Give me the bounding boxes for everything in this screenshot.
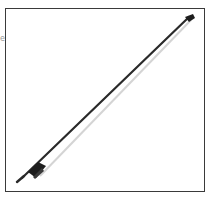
bow-stick	[22, 17, 189, 178]
bow-button	[17, 176, 24, 182]
bow-hair	[40, 20, 191, 176]
violin-bow-illustration	[0, 0, 211, 198]
